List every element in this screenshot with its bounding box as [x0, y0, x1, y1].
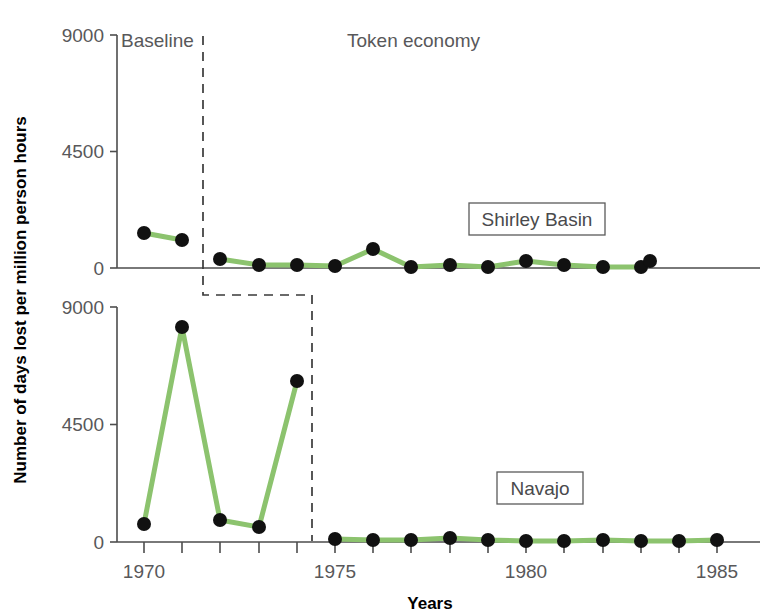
top-data-point: [175, 233, 189, 247]
top-data-point: [557, 258, 571, 272]
x-tick-label-1980: 1980: [505, 561, 547, 582]
phase-divider-line: [203, 36, 312, 541]
bottom-data-point: [328, 532, 342, 546]
bottom-data-point: [672, 534, 686, 548]
panel-label-shirley-basin: Shirley Basin: [482, 209, 593, 230]
y-axis-title: Number of days lost per million person h…: [11, 116, 30, 483]
panel-navajo: 9000 4500 0: [62, 297, 760, 582]
top-data-point: [519, 254, 533, 268]
top-data-point: [596, 260, 610, 274]
bottom-data-point: [710, 533, 724, 547]
bottom-data-point: [366, 533, 380, 547]
bottom-data-point: [175, 320, 189, 334]
bottom-data-point: [481, 533, 495, 547]
bottom-data-point: [557, 534, 571, 548]
top-series-token-economy: [220, 249, 650, 267]
top-data-point: [137, 226, 151, 240]
panel-label-navajo: Navajo: [510, 478, 569, 499]
phase-label-token-economy: Token economy: [347, 30, 481, 51]
top-data-point: [328, 259, 342, 273]
bottom-data-point: [634, 534, 648, 548]
top-y-tick-label-0: 0: [93, 258, 104, 279]
top-y-tick-label-9000: 9000: [62, 25, 104, 46]
x-tick-label-1970: 1970: [123, 561, 165, 582]
bottom-y-tick-label-9000: 9000: [62, 297, 104, 318]
bottom-data-point: [596, 533, 610, 547]
top-y-tick-label-4500: 4500: [62, 141, 104, 162]
bottom-data-point: [404, 533, 418, 547]
x-tick-label-1985: 1985: [696, 561, 738, 582]
top-data-point: [252, 258, 266, 272]
phase-label-baseline: Baseline: [121, 30, 194, 51]
top-data-point: [443, 258, 457, 272]
x-axis-title: Years: [407, 594, 452, 613]
panel-shirley-basin: 9000 4500 0 Shirl: [62, 25, 760, 279]
bottom-y-tick-label-0: 0: [93, 532, 104, 553]
x-tick-label-1975: 1975: [314, 561, 356, 582]
bottom-y-tick-label-4500: 4500: [62, 414, 104, 435]
x-axis-ticks: [144, 542, 717, 553]
bottom-data-point: [252, 520, 266, 534]
bottom-data-point: [519, 534, 533, 548]
top-data-point: [404, 260, 418, 274]
top-data-point: [366, 242, 380, 256]
chart-container: Number of days lost per million person h…: [0, 0, 767, 616]
line-chart: Number of days lost per million person h…: [0, 0, 767, 616]
bottom-series-baseline: [144, 327, 297, 527]
bottom-data-point: [290, 374, 304, 388]
top-data-point: [481, 260, 495, 274]
top-data-point: [290, 258, 304, 272]
bottom-data-point: [443, 531, 457, 545]
bottom-data-point: [213, 513, 227, 527]
top-data-point: [643, 254, 657, 268]
bottom-data-point: [137, 517, 151, 531]
top-data-point: [213, 252, 227, 266]
